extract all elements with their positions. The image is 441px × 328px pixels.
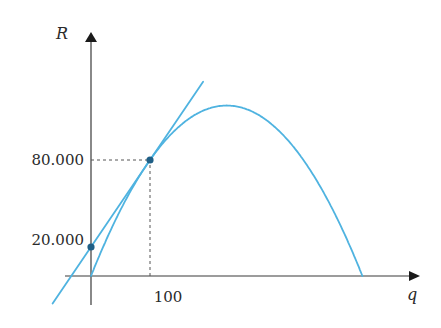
y-axis-arrow-icon [85,32,97,42]
y-tick-label: 80.000 [32,151,85,169]
x-axis-arrow-icon [409,271,420,281]
series-group [53,82,363,304]
tangent-point [146,156,153,163]
axes: q R [55,24,420,305]
guide-lines [91,160,150,276]
x-tick-label: 100 [154,288,183,306]
intercept-point [87,243,94,250]
y-axis-label: R [55,24,68,43]
tangent-line [53,82,204,304]
revenue-chart: q R 10020.00080.000 [0,0,441,328]
tick-labels: 10020.00080.000 [32,151,183,306]
revenue-curve [91,106,362,277]
y-tick-label: 20.000 [32,231,85,249]
x-axis-label: q [407,285,417,304]
